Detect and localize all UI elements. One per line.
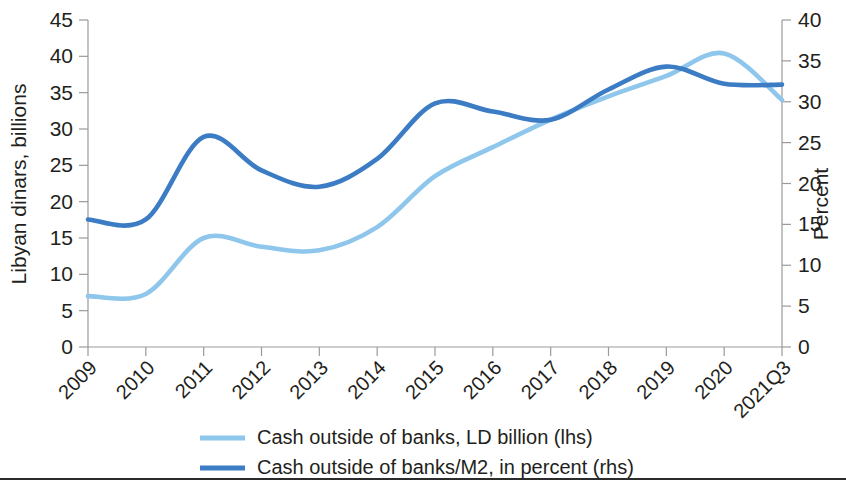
left-tick-label: 30 — [50, 117, 73, 140]
x-tick-label: 2015 — [401, 356, 448, 403]
x-tick-label: 2016 — [459, 356, 506, 403]
left-tick-label: 15 — [50, 226, 73, 249]
left-tick-label: 0 — [61, 335, 73, 358]
x-tick-label: 2018 — [574, 356, 621, 403]
left-tick-label: 10 — [50, 262, 73, 285]
legend-label-1: Cash outside of banks, LD billion (lhs) — [257, 426, 593, 448]
x-tick-label: 2012 — [227, 356, 274, 403]
x-tick-label: 2011 — [171, 356, 217, 402]
right-tick-label: 25 — [798, 131, 821, 154]
series-line-2 — [88, 67, 782, 226]
x-tick-label: 2021Q3 — [729, 356, 795, 422]
left-axis-ticks: 051015202530354045 — [50, 8, 88, 358]
x-tick-label: 2009 — [54, 356, 101, 403]
left-tick-label: 25 — [50, 153, 73, 176]
left-axis-title: Libyan dinars, billions — [7, 84, 30, 285]
legend-label-2: Cash outside of banks/M2, in percent (rh… — [257, 456, 634, 478]
right-tick-label: 10 — [798, 253, 821, 276]
right-tick-label: 5 — [798, 294, 810, 317]
series-line-1 — [88, 53, 782, 299]
x-tick-label: 2019 — [632, 356, 679, 403]
left-tick-label: 5 — [61, 299, 73, 322]
left-tick-label: 20 — [50, 190, 73, 213]
right-axis: 0510152025303540 Percent — [782, 8, 832, 358]
line-chart-svg: 051015202530354045 Libyan dinars, billio… — [0, 0, 846, 481]
right-axis-title: Percent — [809, 168, 832, 241]
x-tick-label: 2020 — [690, 356, 737, 403]
x-tick-label: 2013 — [285, 356, 332, 403]
chart-legend: Cash outside of banks, LD billion (lhs)C… — [200, 426, 634, 478]
series-lines — [88, 53, 782, 299]
left-tick-label: 40 — [50, 44, 73, 67]
x-tick-label: 2010 — [112, 356, 159, 403]
x-tick-label: 2017 — [516, 356, 563, 403]
x-axis: 2009201020112012201320142015201620172018… — [54, 347, 795, 422]
chart-figure: 051015202530354045 Libyan dinars, billio… — [0, 0, 846, 481]
left-tick-label: 45 — [50, 8, 73, 31]
left-tick-label: 35 — [50, 81, 73, 104]
x-axis-ticks — [88, 347, 782, 356]
right-tick-label: 35 — [798, 49, 821, 72]
right-tick-label: 0 — [798, 335, 810, 358]
right-tick-label: 40 — [798, 8, 821, 31]
x-axis-tick-labels: 2009201020112012201320142015201620172018… — [54, 356, 795, 422]
right-tick-label: 30 — [798, 90, 821, 113]
x-tick-label: 2014 — [343, 356, 390, 403]
left-axis: 051015202530354045 Libyan dinars, billio… — [7, 8, 88, 358]
